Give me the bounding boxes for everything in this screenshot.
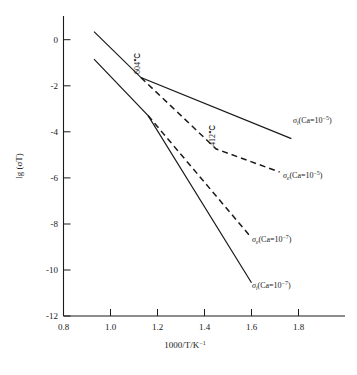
axes: [64, 16, 346, 316]
ca-close-paren: ): [329, 116, 332, 125]
x-tick-label-1.2: 1.2: [152, 322, 163, 332]
y-tick-label--8: -8: [51, 219, 59, 229]
curve-sigma-i-ca-1e-7: [94, 59, 252, 283]
ca-close-paren: ): [288, 281, 291, 290]
x-tick-label-1.6: 1.6: [246, 322, 258, 332]
curve-label-sigma-i-ca-1e-5: σi(Ca=10−5): [293, 115, 332, 126]
ca-text: (Ca=10: [298, 116, 322, 125]
x-tick-label-0.8: 0.8: [58, 322, 70, 332]
ca-close-paren: ): [289, 235, 292, 244]
curve-label-sigma-e-ca-1e-5: σe(Ca=10−5): [283, 170, 323, 181]
curve-label-sigma-i-ca-1e-7: σi(Ca=10−7): [252, 280, 291, 291]
x-axis-title-exponent: −1: [199, 340, 205, 346]
y-tick-label--2: -2: [51, 81, 59, 91]
chart-svg: 0 -2 -4 -6 -8 -10 -12 0.8 1.0 1.2 1.4 1.…: [0, 0, 357, 375]
y-axis-title: lg (σT): [14, 153, 24, 179]
x-axis-title-text: 1000/T/K: [164, 340, 199, 350]
x-axis-title: 1000/T/K−1: [164, 340, 205, 350]
y-axis-tick-labels: 0 -2 -4 -6 -8 -10 -12: [46, 35, 59, 321]
y-tick-label--12: -12: [46, 311, 58, 321]
curve-label-sigma-i-ca-1e-7-text: σi(Ca=10−7): [252, 280, 291, 291]
x-tick-label-1.8: 1.8: [293, 322, 305, 332]
curve-label-sigma-e-ca-1e-7-text: σe(Ca=10−7): [252, 234, 292, 245]
y-tick-label-0: 0: [54, 35, 59, 45]
annotation-412c: 412℃: [208, 125, 217, 146]
y-tick-label--6: -6: [51, 173, 59, 183]
curve-label-sigma-i-ca-1e-5-text: σi(Ca=10−5): [293, 115, 332, 126]
x-axis-tick-labels: 0.8 1.0 1.2 1.4 1.6 1.8: [58, 322, 305, 332]
annotation-604c-unit: ℃: [133, 53, 142, 62]
ca-text: (Ca=10: [257, 281, 281, 290]
ca-text: (Ca=10: [258, 235, 282, 244]
x-tick-label-1.4: 1.4: [199, 322, 211, 332]
annotation-604c: 604℃: [133, 53, 142, 74]
annotation-412c-value: 412: [208, 134, 217, 146]
arrhenius-conductivity-chart: 0 -2 -4 -6 -8 -10 -12 0.8 1.0 1.2 1.4 1.…: [0, 0, 357, 375]
ca-close-paren: ): [320, 171, 323, 180]
curve-label-sigma-e-ca-1e-7: σe(Ca=10−7): [252, 234, 292, 245]
curve-sigma-i-ca-1e-5: [94, 32, 291, 139]
curve-label-sigma-e-ca-1e-5-text: σe(Ca=10−5): [283, 170, 323, 181]
x-axis-ticks: [64, 309, 299, 316]
x-tick-label-1.0: 1.0: [105, 322, 117, 332]
y-axis-ticks: [64, 40, 71, 316]
ca-text: (Ca=10: [289, 171, 313, 180]
annotation-412c-unit: ℃: [208, 125, 217, 134]
y-tick-label--10: -10: [46, 265, 58, 275]
y-tick-label--4: -4: [51, 127, 59, 137]
annotation-604c-value: 604: [133, 62, 142, 74]
